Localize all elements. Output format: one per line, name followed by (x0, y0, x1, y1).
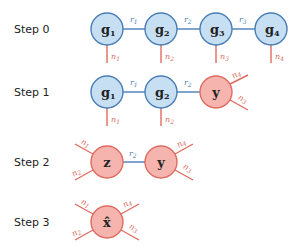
node-y: y (145, 146, 177, 178)
svg-text:y: y (156, 155, 165, 170)
step-3-label: Step 3 (14, 216, 50, 229)
leg-label-n3: n3 (220, 52, 229, 62)
svg-text:z: z (103, 155, 110, 170)
leg-label-n2: n2 (165, 52, 174, 62)
step-2-label: Step 2 (14, 156, 50, 169)
bond-label-r2: r2 (184, 15, 192, 25)
step-1: Step 1 r1 r2 n1 n2 n4 n3 g1 g2 y (14, 68, 249, 126)
node-z: z (91, 146, 123, 178)
node-g2: g2 (145, 13, 177, 45)
step-0-label: Step 0 (14, 23, 50, 36)
step-2: Step 2 r2 n1 n2 n4 n3 z y (14, 137, 194, 180)
leg-label-n1: n1 (111, 115, 120, 125)
bond-label-r3: r3 (239, 15, 247, 25)
leg-label-n4: n4 (275, 52, 284, 62)
leg-label-n3: n3 (236, 93, 249, 106)
svg-text:x̂: x̂ (103, 215, 111, 230)
step-1-label: Step 1 (14, 86, 50, 99)
bond-label-r2: r2 (184, 78, 192, 88)
leg-label-n3: n3 (127, 222, 140, 235)
node-y: y (200, 76, 232, 108)
node-g1: g1 (91, 13, 123, 45)
step-0: Step 0 r1 r2 r3 n1 n2 n3 n4 g1 g2 g3 (14, 13, 287, 63)
tensor-network-diagram: Step 0 r1 r2 r3 n1 n2 n3 n4 g1 g2 g3 (0, 0, 304, 252)
bond-label-r1: r1 (130, 15, 138, 25)
svg-text:y: y (211, 85, 220, 100)
node-g4: g4 (255, 13, 287, 45)
node-g1: g1 (91, 76, 123, 108)
bond-label-r1: r1 (130, 78, 138, 88)
node-x-hat: x̂ (91, 206, 123, 238)
step-3: Step 3 n1 n2 n4 n3 x̂ (14, 197, 140, 240)
leg-label-n1: n1 (111, 52, 120, 62)
bond-label-r2: r2 (129, 149, 137, 159)
leg-label-n3: n3 (181, 162, 194, 175)
node-g2: g2 (145, 76, 177, 108)
node-g3: g3 (200, 13, 232, 45)
leg-label-n2: n2 (165, 115, 174, 125)
